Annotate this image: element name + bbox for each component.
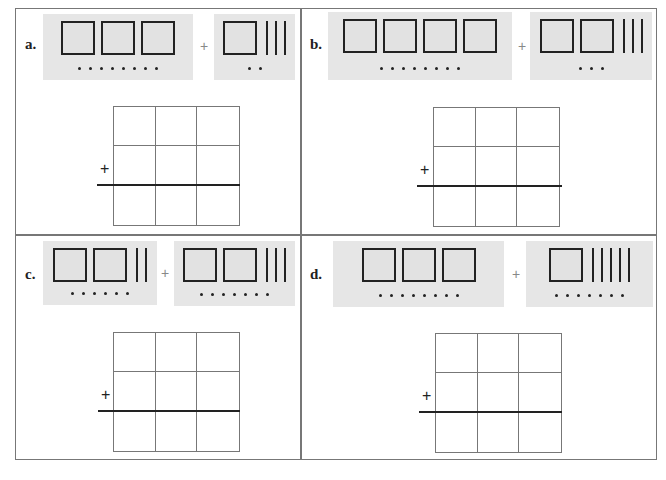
unit-dot-icon [248, 67, 251, 70]
grid-plus-sign: + [100, 160, 109, 178]
plus-sign: + [200, 38, 208, 54]
unit-dot-icon [266, 293, 269, 296]
hundred-flat-icon [343, 19, 377, 53]
unit-dot-icon [413, 67, 416, 70]
ten-rod-icon [632, 19, 634, 53]
ten-rod-icon [275, 21, 277, 55]
problem-label: a. [25, 36, 36, 53]
hundred-flat-icon [362, 248, 396, 282]
block-model-left [328, 12, 512, 80]
answer-cell[interactable] [197, 412, 239, 451]
ten-rod-icon [641, 19, 643, 53]
answer-cell[interactable] [434, 187, 476, 226]
hundred-flat-icon [540, 19, 574, 53]
unit-dot-icon [577, 294, 580, 297]
unit-dot-icon [78, 67, 81, 70]
unit-dots [530, 67, 652, 70]
unit-dot-icon [111, 67, 114, 70]
answer-cell[interactable] [517, 187, 559, 226]
answer-cell[interactable] [478, 373, 520, 412]
answer-cell[interactable] [476, 187, 518, 226]
plus-sign: + [161, 265, 169, 281]
unit-dot-icon [82, 292, 85, 295]
unit-dot-icon [601, 67, 604, 70]
answer-cell[interactable] [197, 186, 239, 225]
hundred-flat-icon [223, 248, 257, 282]
block-model-left [43, 14, 193, 80]
unit-dot-icon [434, 294, 437, 297]
answer-cell[interactable] [436, 334, 478, 373]
answer-cell[interactable] [476, 147, 518, 186]
answer-cell[interactable] [114, 333, 156, 372]
unit-dot-icon [456, 294, 459, 297]
ten-rod-icon [601, 248, 603, 282]
answer-cell[interactable] [156, 186, 198, 225]
unit-dot-icon [259, 67, 262, 70]
answer-cell[interactable] [114, 412, 156, 451]
answer-cell[interactable] [156, 372, 198, 411]
answer-cell[interactable] [197, 107, 239, 146]
sum-line [417, 185, 562, 187]
blocks-row [526, 248, 653, 282]
unit-dot-icon [93, 292, 96, 295]
unit-dot-icon [255, 293, 258, 296]
unit-dots [43, 67, 193, 70]
answer-cell[interactable] [156, 412, 198, 451]
unit-dot-icon [71, 292, 74, 295]
unit-dot-icon [211, 293, 214, 296]
answer-cell[interactable] [114, 146, 156, 185]
unit-dot-icon [590, 67, 593, 70]
answer-cell[interactable] [476, 108, 518, 147]
answer-cell[interactable] [478, 334, 520, 373]
hundred-flat-icon [402, 248, 436, 282]
answer-cell[interactable] [197, 146, 239, 185]
grid-plus-sign: + [101, 386, 110, 404]
answer-cell[interactable] [156, 107, 198, 146]
answer-cell[interactable] [436, 373, 478, 412]
unit-dot-icon [233, 293, 236, 296]
answer-cell[interactable] [156, 333, 198, 372]
answer-cell[interactable] [478, 413, 520, 452]
answer-cell[interactable] [197, 372, 239, 411]
plus-sign: + [518, 38, 526, 54]
hundred-flat-icon [183, 248, 217, 282]
answer-cell[interactable] [114, 107, 156, 146]
unit-dot-icon [244, 293, 247, 296]
unit-dot-icon [621, 294, 624, 297]
answer-cell[interactable] [434, 147, 476, 186]
grid-plus-sign: + [420, 161, 429, 179]
block-model-right [214, 14, 295, 80]
blocks-row [214, 21, 295, 55]
answer-cell[interactable] [114, 186, 156, 225]
hundred-flat-icon [61, 21, 95, 55]
unit-dot-icon [391, 67, 394, 70]
hundred-flat-icon [53, 248, 87, 282]
hundred-flat-icon [442, 248, 476, 282]
answer-grid [435, 333, 562, 453]
answer-cell[interactable] [519, 373, 561, 412]
sum-line [97, 184, 240, 186]
hundred-flat-icon [223, 21, 257, 55]
answer-cell[interactable] [517, 108, 559, 147]
answer-cell[interactable] [519, 413, 561, 452]
unit-dot-icon [126, 292, 129, 295]
blocks-row [333, 248, 504, 282]
unit-dots [328, 67, 512, 70]
answer-cell[interactable] [197, 333, 239, 372]
answer-cell[interactable] [519, 334, 561, 373]
unit-dot-icon [588, 294, 591, 297]
block-model-left [333, 241, 504, 307]
hundred-flat-icon [101, 21, 135, 55]
answer-cell[interactable] [114, 372, 156, 411]
ten-rod-icon [592, 248, 594, 282]
blocks-row [43, 248, 157, 282]
unit-dot-icon [200, 293, 203, 296]
answer-cell[interactable] [434, 108, 476, 147]
answer-cell[interactable] [517, 147, 559, 186]
answer-cell[interactable] [436, 413, 478, 452]
unit-dot-icon [435, 67, 438, 70]
answer-cell[interactable] [156, 146, 198, 185]
unit-dot-icon [401, 294, 404, 297]
blocks-row [174, 248, 295, 282]
hundred-flat-icon [423, 19, 457, 53]
